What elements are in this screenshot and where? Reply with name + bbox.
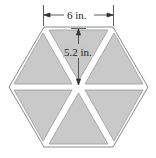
- hexagon-figure: [0, 0, 156, 158]
- height-label: 5.2 in.: [63, 46, 93, 58]
- width-label: 6 in.: [67, 9, 87, 21]
